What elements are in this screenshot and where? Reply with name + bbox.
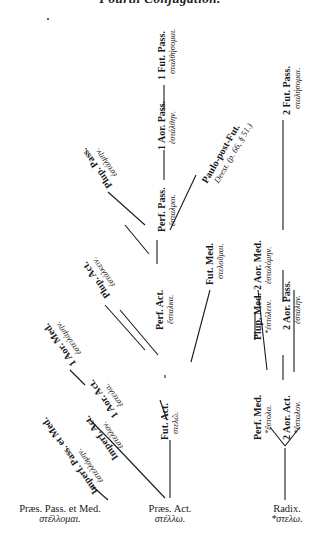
greek-form: ἐστάλην. [293, 281, 302, 330]
node-praes-pass-med: Præs. Pass. et Med. στέλλομαι. [5, 503, 115, 525]
greek-form: ἐσταλόμην. [264, 240, 273, 290]
node-perf-pass: Perf. Pass. ἔσταλμαι. [157, 187, 176, 232]
tense-label: 2 Aor. Pass. [282, 281, 293, 330]
greek-form: στελῶ. [171, 403, 180, 440]
node-fut-act: Fut. Act. στελῶ. [160, 403, 179, 440]
node-perf-act: Perf. Act. ἔσταλκα. [155, 290, 174, 330]
greek-form: *ἐστόλειν. [264, 293, 273, 340]
tense-label: Perf. Pass. [157, 187, 168, 232]
greek-form: σταλθήσομαι. [168, 29, 177, 80]
greek-form: στέλλομαι. [5, 514, 115, 525]
node-praes-act: Præs. Act. στέλλω. [135, 503, 205, 525]
node-fut-med: Fut. Med. στελοῦμαι. [205, 243, 224, 285]
tense-label: 1 Aor. Pass. [157, 101, 168, 150]
greek-form: στελοῦμαι. [216, 243, 225, 285]
node-aor2-act: 2 Aor. Act. *ἔσταλον. [282, 395, 301, 440]
greek-form: σταλήσομαι. [293, 66, 302, 115]
greek-form: *ἔστολα. [264, 395, 273, 440]
node-perf-med: Perf. Med. *ἔστολα. [253, 395, 272, 440]
greek-form: ἔσταλμαι. [168, 187, 177, 232]
tense-label: 2 Aor. Med. [253, 240, 264, 290]
greek-form: στέλλω. [135, 514, 205, 525]
greek-form: *ἔσταλον. [293, 395, 302, 440]
tense-label: 2 Aor. Act. [282, 395, 293, 440]
tense-label: 1 Fut. Pass. [157, 29, 168, 80]
tense-label: Fut. Med. [205, 243, 216, 285]
tense-label: Perf. Med. [253, 395, 264, 440]
tense-label: Perf. Act. [155, 290, 166, 330]
greek-form: *στελω. [262, 514, 312, 525]
node-fut2-pass: 2 Fut. Pass. σταλήσομαι. [282, 66, 301, 115]
node-aor2-med: 2 Aor. Med. ἐσταλόμην. [253, 240, 272, 290]
node-fut1-pass: 1 Fut. Pass. σταλθήσομαι. [157, 29, 176, 80]
tense-label: Fut. Act. [160, 403, 171, 440]
node-plup-med: Plup. Med. *ἐστόλειν. [253, 293, 272, 340]
tense-label: 2 Fut. Pass. [282, 66, 293, 115]
tense-label: Plup. Med. [253, 293, 264, 340]
greek-form: ἐστάλθην. [168, 101, 177, 150]
greek-form: ἔσταλκα. [166, 290, 175, 330]
node-aor1-pass: 1 Aor. Pass. ἐστάλθην. [157, 101, 176, 150]
node-aor2-pass: 2 Aor. Pass. ἐστάλην. [282, 281, 301, 330]
node-radix: Radix. *στελω. [262, 503, 312, 525]
